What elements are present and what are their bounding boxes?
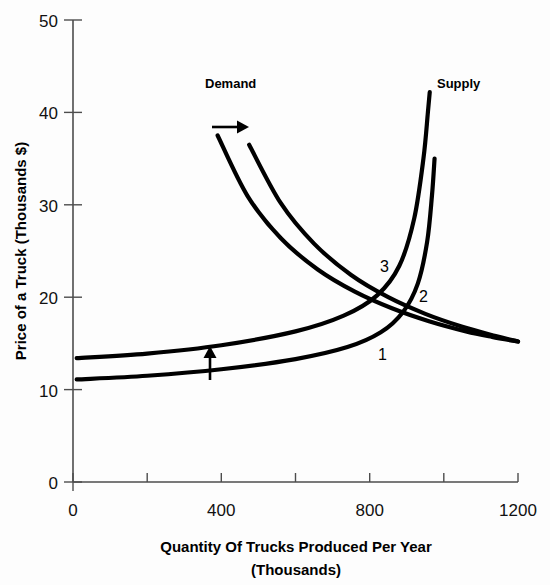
x-axis-title-line2: (Thousands) (251, 561, 341, 578)
y-tick-label-10: 10 (39, 382, 58, 401)
curve-demand-2 (249, 145, 518, 342)
chart-canvas: 0 10 20 30 40 50 0 400 800 1200 Quantity… (0, 0, 550, 585)
x-tick-label-400: 400 (207, 501, 235, 520)
supply-curve-label: Supply (437, 76, 481, 91)
curve-supply-2 (77, 92, 430, 358)
equilibrium-label-3: 3 (380, 258, 389, 275)
curve-demand-1 (218, 136, 518, 342)
y-tick-label-50: 50 (39, 12, 58, 31)
curves-group (77, 92, 518, 379)
x-tick-label-1200: 1200 (499, 501, 537, 520)
x-tick-label-800: 800 (356, 501, 384, 520)
y-tick-label-30: 30 (39, 197, 58, 216)
y-axis-title: Price of a Truck (Thousands $) (12, 142, 29, 360)
supply-demand-chart: 0 10 20 30 40 50 0 400 800 1200 Quantity… (0, 0, 550, 585)
y-tick-label-40: 40 (39, 104, 58, 123)
demand-curve-label: Demand (205, 76, 256, 91)
supply-shift-arrow-icon (204, 346, 217, 380)
y-tick-label-0: 0 (49, 474, 58, 493)
x-axis-title: Quantity Of Trucks Produced Per Year (160, 538, 432, 555)
demand-shift-arrow-icon (212, 121, 249, 134)
x-tick-label-0: 0 (68, 501, 77, 520)
y-tick-label-20: 20 (39, 289, 58, 308)
equilibrium-label-1: 1 (378, 346, 387, 363)
equilibrium-label-2: 2 (419, 288, 428, 305)
